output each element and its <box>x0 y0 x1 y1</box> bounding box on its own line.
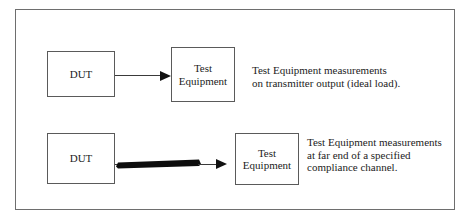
dut-box-ideal-load: DUT <box>47 51 115 97</box>
test-equipment-box-ideal-load-label: Test Equipment <box>172 62 234 87</box>
caption-ideal-load: Test Equipment measurements on transmitt… <box>252 64 452 89</box>
arrow-head-compliance-channel-icon <box>216 159 227 169</box>
caption-compliance-channel: Test Equipment measurements at far end o… <box>307 136 473 174</box>
test-equipment-box-compliance-channel: Test Equipment <box>235 133 299 185</box>
test-equipment-box-ideal-load: Test Equipment <box>171 47 235 102</box>
figure-border-frame: DUT Test Equipment Test Equipment measur… <box>15 9 455 210</box>
connector-line-ideal-load <box>115 75 162 76</box>
arrow-head-ideal-load-icon <box>160 71 171 81</box>
dut-box-ideal-load-label: DUT <box>70 68 93 80</box>
test-equipment-box-compliance-channel-label: Test Equipment <box>236 147 298 172</box>
figure-root: DUT Test Equipment Test Equipment measur… <box>0 0 473 219</box>
compliance-channel-bar-icon <box>116 157 201 169</box>
connector-line-compliance-channel-right <box>198 164 218 165</box>
dut-box-compliance-channel-label: DUT <box>70 152 93 164</box>
dut-box-compliance-channel: DUT <box>47 133 115 184</box>
